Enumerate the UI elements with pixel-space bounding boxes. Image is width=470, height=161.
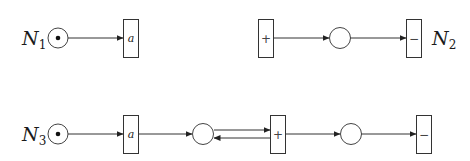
net-n2-place-p1 (330, 28, 351, 49)
svg-text:−: − (419, 128, 429, 142)
net-n3: N3 a + − (21, 116, 432, 154)
net-n1-place-p1 (48, 28, 68, 48)
net-n1-label: N1 (21, 27, 46, 52)
token-icon (56, 132, 61, 137)
net-n2: + − N2 (259, 20, 457, 58)
net-n3-place-p2 (193, 124, 214, 145)
svg-text:−: − (409, 32, 419, 46)
net-n3-place-p1 (48, 124, 68, 144)
net-n2-transition-minus: − (407, 20, 422, 58)
svg-text:a: a (128, 32, 135, 45)
net-n2-label: N2 (431, 27, 456, 52)
net-n3-label: N3 (21, 123, 46, 148)
svg-text:+: + (273, 128, 283, 142)
svg-text:+: + (261, 32, 271, 46)
petri-net-diagram: N1 a + − N2 N3 (0, 0, 470, 161)
net-n3-transition-plus: + (271, 116, 286, 154)
net-n2-transition-plus: + (259, 20, 274, 58)
token-icon (56, 36, 61, 41)
net-n3-transition-a: a (124, 116, 139, 154)
net-n1: N1 a (21, 20, 139, 58)
net-n3-transition-minus: − (417, 116, 432, 154)
svg-text:a: a (128, 128, 135, 141)
net-n3-place-p3 (341, 124, 362, 145)
net-n1-transition-a: a (124, 20, 139, 58)
